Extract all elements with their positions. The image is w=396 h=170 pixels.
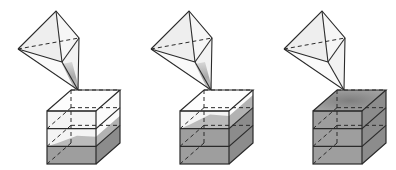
pyramid-cube-diagram bbox=[0, 0, 396, 170]
stage-3-figure bbox=[284, 11, 386, 164]
cube-layer-front-1 bbox=[313, 146, 362, 164]
cube-layer-front-1 bbox=[180, 146, 229, 164]
pyramid-face-left bbox=[18, 11, 62, 62]
diagram-canvas bbox=[0, 0, 396, 170]
stage-2-figure bbox=[151, 11, 253, 164]
cube-layer-front-1 bbox=[47, 146, 96, 164]
cube-layer-front-2 bbox=[313, 129, 362, 147]
stage-1-figure bbox=[18, 11, 120, 164]
pyramid-face-left bbox=[151, 11, 195, 62]
pyramid-face-left bbox=[284, 11, 328, 62]
cube-layer-front-2 bbox=[180, 129, 229, 147]
